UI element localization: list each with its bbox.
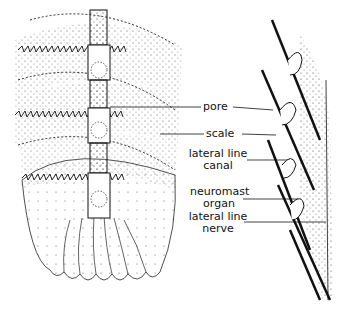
- scale-surface-view: [15, 10, 182, 280]
- label-neuromast-organ-line2: organ: [190, 198, 248, 210]
- diagram-artwork: [0, 0, 343, 316]
- label-lateral-line-canal-line2: canal: [185, 160, 251, 172]
- label-pore: pore: [203, 101, 228, 113]
- label-lateral-line-canal: lateral line canal: [185, 148, 251, 172]
- lateral-line-diagram: pore scale lateral line canal neuromast …: [0, 0, 343, 316]
- label-lateral-line-nerve-line2: nerve: [185, 223, 251, 235]
- label-neuromast-organ: neuromast organ: [190, 186, 248, 210]
- label-lateral-line-nerve: lateral line nerve: [185, 211, 251, 235]
- label-scale: scale: [206, 128, 234, 140]
